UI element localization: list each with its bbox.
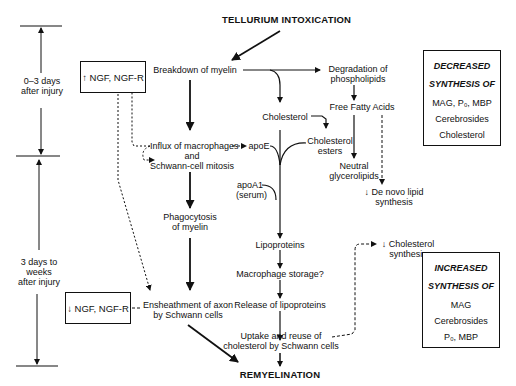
increased-synthesis-box: INCREASED SYNTHESIS OF MAG Cerebrosides … [422, 252, 500, 348]
node-breakdown-of-myelin: Breakdown of myelin [150, 65, 240, 75]
node-phago-line2: of myelin [160, 222, 220, 232]
node-phagocytosis: Phagocytosis of myelin [160, 212, 220, 232]
decreased-heading2: SYNTHESIS OF [424, 79, 500, 89]
decreased-item-1: MAG, P₀, MBP [424, 98, 500, 108]
node-apoA1-line1: apoA1 [236, 180, 264, 190]
node-macrophage-storage: Macrophage storage? [232, 269, 328, 279]
node-apoA1-line2: (serum) [236, 190, 264, 200]
node-ensheath-line2: by Schwann cells [140, 310, 236, 320]
diagram-title: TELLURIUM INTOXICATION [222, 15, 342, 25]
node-cholesterol-esters: Cholesterol esters [306, 136, 354, 156]
node-influx-line2: and [150, 151, 234, 161]
node-uptake-line1: Uptake and reuse of [222, 331, 340, 341]
node-uptake-reuse: Uptake and reuse of cholesterol by Schwa… [222, 331, 340, 351]
decreased-heading1: DECREASED [424, 61, 500, 71]
decreased-item-2: Cerebrosides [424, 114, 500, 124]
timeline-phase1-line1: 0–3 days [10, 76, 74, 86]
timeline-phase2-line2: weeks [8, 267, 70, 277]
node-de-novo-lipid-synthesis: ↓ De novo lipid synthesis [354, 187, 434, 207]
node-degradation-line1: Degradation of [320, 64, 396, 74]
node-denovo-line2: synthesis [354, 197, 434, 207]
node-neutral-line2: glycerolipids [322, 171, 386, 181]
ngf-increased-box: ↑ NGF, NGF-R [80, 61, 146, 93]
decreased-item-3: Cholesterol [424, 130, 500, 140]
timeline-phase1-line2: after injury [10, 86, 74, 96]
increased-item-2: Cerebrosides [423, 316, 499, 326]
node-influx-macrophages: Influx of macrophages and Schwann-cell m… [150, 141, 234, 171]
node-chol-esters-line2: esters [306, 146, 354, 156]
node-ensheath-line1: Ensheathment of axon [140, 300, 236, 310]
node-release-lipoproteins: Release of lipoproteins [232, 300, 328, 310]
timeline-phase2-line1: 3 days to [8, 257, 70, 267]
node-chol-esters-line1: Cholesterol [306, 136, 354, 146]
node-chol-synth-line1: ↓ Cholesterol [378, 239, 438, 249]
node-influx-line1: Influx of macrophages [150, 141, 234, 151]
node-denovo-line1: ↓ De novo lipid [354, 187, 434, 197]
decreased-synthesis-box: DECREASED SYNTHESIS OF MAG, P₀, MBP Cere… [423, 50, 501, 146]
node-phago-line1: Phagocytosis [160, 212, 220, 222]
increased-item-1: MAG [423, 300, 499, 310]
node-cholesterol: Cholesterol [260, 112, 310, 122]
node-degradation-line2: phospholipids [320, 74, 396, 84]
node-influx-line3: Schwann-cell mitosis [150, 161, 234, 171]
timeline-phase2-line3: after injury [8, 277, 70, 287]
increased-item-3: P₀, MBP [423, 332, 499, 342]
increased-heading1: INCREASED [423, 263, 499, 273]
ngf-decreased-box: ↓ NGF, NGF-R [65, 292, 131, 324]
node-apoA1: apoA1 (serum) [236, 180, 264, 200]
node-neutral-line1: Neutral [322, 161, 386, 171]
ngf-increased-label: ↑ NGF, NGF-R [81, 62, 145, 92]
node-degradation-phospholipids: Degradation of phospholipids [320, 64, 396, 84]
node-free-fatty-acids: Free Fatty Acids [324, 102, 400, 112]
timeline-phase2-label: 3 days to weeks after injury [8, 257, 70, 287]
increased-heading2: SYNTHESIS OF [423, 281, 499, 291]
node-lipoproteins: Lipoproteins [250, 240, 310, 250]
node-apoE: apoE [248, 141, 270, 151]
diagram-end-remyelination: REMYELINATION [238, 370, 322, 380]
node-uptake-line2: cholesterol by Schwann cells [222, 341, 340, 351]
node-ensheathment: Ensheathment of axon by Schwann cells [140, 300, 236, 320]
timeline-phase1-label: 0–3 days after injury [10, 76, 74, 96]
ngf-decreased-label: ↓ NGF, NGF-R [66, 293, 130, 323]
node-neutral-glycerolipids: Neutral glycerolipids [322, 161, 386, 181]
